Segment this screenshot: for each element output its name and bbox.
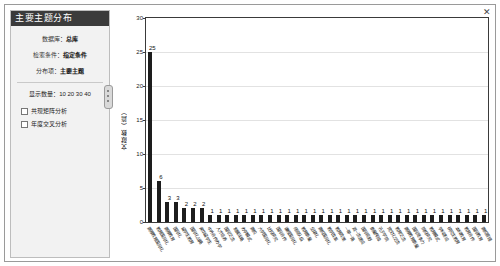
- bar[interactable]: [379, 215, 383, 222]
- bar[interactable]: [456, 215, 460, 222]
- bar[interactable]: [439, 215, 443, 222]
- bar[interactable]: [302, 215, 306, 222]
- panel-row-database-value: 总库: [66, 36, 78, 42]
- bar[interactable]: [319, 215, 323, 222]
- bar-value-label: 6: [154, 174, 168, 180]
- panel-divider: [17, 82, 103, 83]
- bar[interactable]: [353, 215, 357, 222]
- bar[interactable]: [285, 215, 289, 222]
- panel-row-condition-label: 检索条件：: [33, 52, 63, 58]
- bar[interactable]: [165, 202, 169, 222]
- panel-row-database: 数据库：总库: [15, 34, 105, 43]
- bar[interactable]: [208, 215, 212, 222]
- bar[interactable]: [405, 215, 409, 222]
- bar[interactable]: [259, 215, 263, 222]
- panel-row-field-value: 主要主题: [60, 68, 84, 74]
- bar[interactable]: [234, 215, 238, 222]
- grid-line: [146, 120, 488, 121]
- bar-value-label: 3: [171, 195, 185, 201]
- window-frame: ✕ 主要主题分布 数据库：总库 检索条件：指定条件 分布项：主要主题 显示数量：…: [4, 4, 496, 262]
- panel-row-condition-value: 指定条件: [63, 52, 87, 58]
- grid-line: [146, 52, 488, 53]
- y-axis-tick-mark: [143, 154, 146, 155]
- panel-body: 数据库：总库 检索条件：指定条件 分布项：主要主题 显示数量：10 20 30 …: [11, 26, 109, 136]
- bar[interactable]: [328, 215, 332, 222]
- bar[interactable]: [174, 202, 178, 222]
- bar[interactable]: [430, 215, 434, 222]
- bar[interactable]: [465, 215, 469, 222]
- grid-line: [146, 188, 488, 189]
- bar[interactable]: [148, 52, 152, 222]
- bar[interactable]: [182, 208, 186, 222]
- checkbox-icon[interactable]: [21, 121, 28, 128]
- bar-chart-plot: 05101520253025高等教育国际化6教育国际化3高等教育3国际化2留学生…: [145, 17, 489, 223]
- panel-row-field-label: 分布项：: [36, 68, 60, 74]
- option-yearly-cross-label: 年度交叉分析: [31, 121, 67, 127]
- display-count-label: 显示数量：: [29, 91, 59, 97]
- y-axis-tick-mark: [143, 18, 146, 19]
- panel-resize-handle[interactable]: [104, 85, 113, 109]
- display-count-row: 显示数量：10 20 30 40: [15, 89, 105, 98]
- option-cooccurrence-label: 共现矩阵分析: [31, 108, 67, 114]
- bar-value-label: 2: [197, 201, 211, 207]
- bar[interactable]: [217, 215, 221, 222]
- bar[interactable]: [473, 215, 477, 222]
- screenshot-root: ✕ 主要主题分布 数据库：总库 检索条件：指定条件 分布项：主要主题 显示数量：…: [0, 0, 500, 266]
- bar[interactable]: [200, 208, 204, 222]
- bar[interactable]: [362, 215, 366, 222]
- y-axis-tick: 10: [136, 151, 143, 157]
- bar[interactable]: [336, 215, 340, 222]
- bar[interactable]: [422, 215, 426, 222]
- panel-row-condition: 检索条件：指定条件: [15, 50, 105, 59]
- checkbox-icon[interactable]: [21, 108, 28, 115]
- option-yearly-cross[interactable]: 年度交叉分析: [21, 119, 105, 128]
- bar[interactable]: [225, 215, 229, 222]
- bar[interactable]: [277, 215, 281, 222]
- info-panel: 主要主题分布 数据库：总库 检索条件：指定条件 分布项：主要主题 显示数量：10…: [10, 10, 110, 258]
- y-axis-tick-mark: [143, 86, 146, 87]
- bar[interactable]: [448, 215, 452, 222]
- bar[interactable]: [251, 215, 255, 222]
- y-axis-tick-mark: [143, 222, 146, 223]
- y-axis-tick-mark: [143, 120, 146, 121]
- bar[interactable]: [242, 215, 246, 222]
- bar[interactable]: [345, 215, 349, 222]
- bar-value-label: 25: [145, 45, 159, 51]
- bar[interactable]: [268, 215, 272, 222]
- bar[interactable]: [413, 215, 417, 222]
- display-count-values[interactable]: 10 20 30 40: [59, 91, 91, 97]
- y-axis-label: 文献数（篇）: [119, 108, 128, 150]
- bar[interactable]: [311, 215, 315, 222]
- bar[interactable]: [294, 215, 298, 222]
- bar[interactable]: [482, 215, 486, 222]
- y-axis-tick: 20: [136, 83, 143, 89]
- panel-row-field: 分布项：主要主题: [15, 66, 105, 75]
- bar[interactable]: [396, 215, 400, 222]
- y-axis-tick: 30: [136, 15, 143, 21]
- panel-title: 主要主题分布: [11, 11, 109, 26]
- y-axis-tick: 15: [136, 117, 143, 123]
- bar[interactable]: [191, 208, 195, 222]
- bar[interactable]: [388, 215, 392, 222]
- grid-line: [146, 154, 488, 155]
- panel-row-database-label: 数据库：: [42, 36, 66, 42]
- y-axis-tick-mark: [143, 52, 146, 53]
- option-cooccurrence[interactable]: 共现矩阵分析: [21, 106, 105, 115]
- bar[interactable]: [371, 215, 375, 222]
- grid-line: [146, 86, 488, 87]
- chart-area: 文献数（篇） 05101520253025高等教育国际化6教育国际化3高等教育3…: [117, 13, 495, 263]
- bar-value-label: 1: [479, 208, 493, 214]
- bar[interactable]: [157, 181, 161, 222]
- y-axis-tick-mark: [143, 188, 146, 189]
- y-axis-tick: 25: [136, 49, 143, 55]
